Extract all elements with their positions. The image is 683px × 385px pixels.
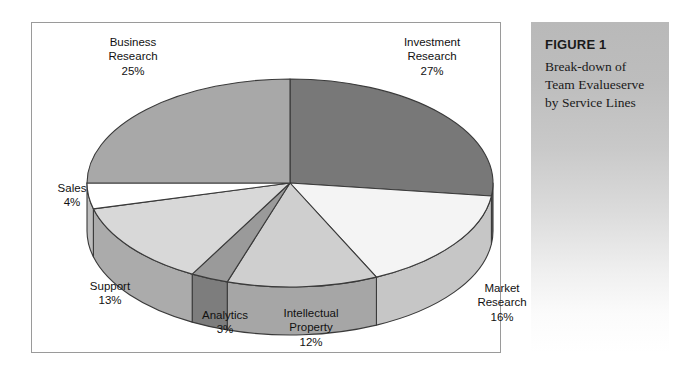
pie-label-sales: Sales 4% <box>32 181 112 210</box>
label-value: 25% <box>78 64 188 78</box>
label-value: 13% <box>60 293 160 307</box>
pie-top-faces <box>87 79 493 287</box>
pie-slice-business-research[interactable] <box>87 79 290 183</box>
label-line-1: Analytics <box>175 308 275 322</box>
label-line-1: Support <box>60 279 160 293</box>
pie-label-business-research: Business Research 25% <box>78 35 188 78</box>
pie-label-support: Support 13% <box>60 279 160 308</box>
figure-caption-panel: FIGURE 1 Break-down of Team Evalueserve … <box>531 22 669 353</box>
label-value: 27% <box>372 64 492 78</box>
chart-frame: Business Research 25% Investment Researc… <box>31 22 501 353</box>
pie-slice-investment-research[interactable] <box>290 79 493 196</box>
label-line-1: Sales <box>32 181 112 195</box>
figure-root: Business Research 25% Investment Researc… <box>0 0 683 385</box>
label-line-2: Research <box>78 49 188 63</box>
pie-label-analytics: Analytics 3% <box>175 308 275 337</box>
label-value: 12% <box>256 335 366 349</box>
label-value: 3% <box>175 322 275 336</box>
caption-line-1: Break-down of <box>545 58 657 76</box>
label-line-1: Business <box>78 35 188 49</box>
caption-line-3: by Service Lines <box>545 94 657 112</box>
figure-number: FIGURE 1 <box>545 38 657 53</box>
pie-chart: Business Research 25% Investment Researc… <box>32 23 502 354</box>
pie-label-investment-research: Investment Research 27% <box>372 35 492 78</box>
label-line-1: Investment <box>372 35 492 49</box>
caption-line-2: Team Evalueserve <box>545 76 657 94</box>
label-line-2: Research <box>372 49 492 63</box>
figure-caption-text: Break-down of Team Evalueserve by Servic… <box>545 58 657 111</box>
label-value: 4% <box>32 195 112 209</box>
